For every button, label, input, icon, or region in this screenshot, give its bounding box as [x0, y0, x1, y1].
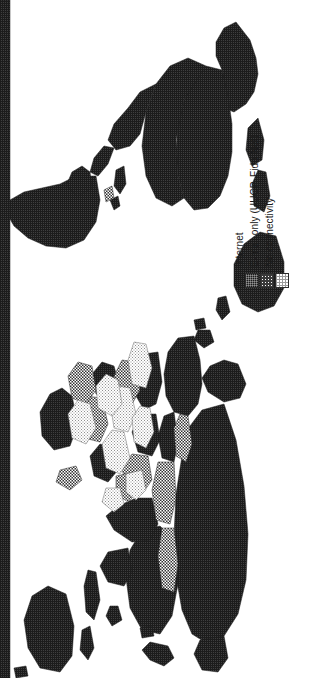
region-new-zealand — [14, 666, 28, 678]
legend-swatch-email-only — [260, 273, 274, 288]
world-map-svg — [0, 0, 328, 678]
legend-swatch-wrap-internet — [245, 273, 259, 288]
map-canvas — [0, 0, 328, 678]
legend-label-internet: Internet — [234, 127, 245, 267]
legend-label-email-only: E-mail only (UUCP, Fido Net) — [249, 127, 260, 267]
legend-label-no-connectivity: No connectivity — [264, 127, 275, 267]
region-antarctica — [0, 0, 10, 678]
legend-swatch-wrap-email-only — [260, 273, 274, 288]
connectivity-legend: Internet E-mail only (UUCP, Fido Net) No… — [245, 128, 297, 288]
region-korea — [140, 626, 154, 638]
region-ireland — [194, 318, 206, 330]
legend-swatch-wrap-no-connectivity — [275, 273, 289, 288]
legend-swatch-no-connectivity — [275, 273, 289, 288]
legend-entry-no-connectivity: No connectivity — [275, 128, 291, 288]
connectivity-world-map-figure: Internet E-mail only (UUCP, Fido Net) No… — [0, 0, 328, 678]
legend-swatch-internet — [245, 273, 259, 288]
